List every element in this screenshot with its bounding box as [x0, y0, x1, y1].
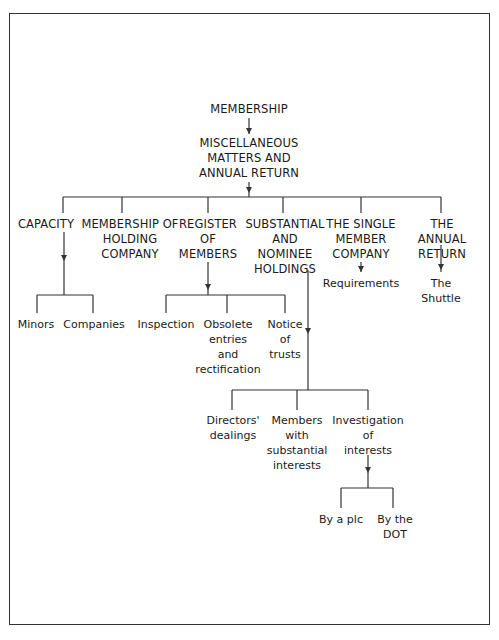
- node-inspection: Inspection: [138, 317, 195, 332]
- node-single-member-company: THE SINGLE MEMBER COMPANY: [326, 217, 395, 262]
- arrow-head-icon: [305, 328, 311, 334]
- node-register-of-members: REGISTER OF MEMBERS: [179, 217, 237, 262]
- node-companies: Companies: [63, 317, 124, 332]
- node-substantial-nominee-holdings: SUBSTANTIAL AND NOMINEE HOLDINGS: [245, 217, 324, 277]
- arrow-head-icon: [438, 264, 444, 270]
- node-obsolete-entries: Obsolete entries and rectification: [195, 317, 260, 377]
- arrow-head-icon: [61, 255, 67, 261]
- node-investigation-of-interests: Investigation of interests: [332, 413, 403, 458]
- node-minors: Minors: [18, 317, 55, 332]
- node-membership: MEMBERSHIP: [210, 102, 288, 117]
- node-annual-return: THE ANNUAL RETURN: [414, 217, 471, 262]
- arrow-head-icon: [205, 284, 211, 290]
- node-notice-of-trusts: Notice of trusts: [267, 317, 302, 362]
- node-requirements: Requirements: [323, 276, 399, 291]
- arrow-head-icon: [358, 266, 364, 272]
- node-the-shuttle: The Shuttle: [421, 276, 460, 306]
- arrow-head-icon: [246, 187, 252, 193]
- arrow-head-icon: [365, 467, 371, 473]
- arrow-head-icon: [246, 128, 252, 134]
- node-by-the-dot: By the DOT: [377, 512, 413, 542]
- node-capacity: CAPACITY: [18, 217, 74, 232]
- node-directors-dealings: Directors' dealings: [207, 413, 260, 443]
- node-membership-of-holding-company: MEMBERSHIP OF HOLDING COMPANY: [81, 217, 178, 262]
- node-by-a-plc: By a plc: [319, 512, 363, 527]
- node-miscellaneous-matters: MISCELLANEOUS MATTERS AND ANNUAL RETURN: [199, 136, 299, 181]
- node-members-substantial-interests: Members with substantial interests: [267, 413, 328, 473]
